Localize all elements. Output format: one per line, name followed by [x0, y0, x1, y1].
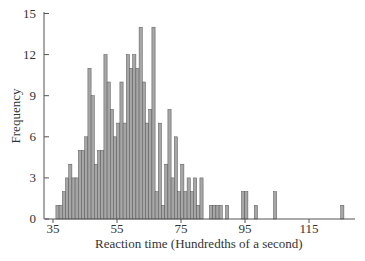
- histogram-bar: [200, 178, 203, 219]
- histogram-bar: [184, 192, 187, 219]
- histogram-bar: [104, 55, 107, 219]
- histogram-bar: [165, 164, 168, 219]
- histogram-bar: [75, 178, 78, 219]
- y-tick-label: 12: [23, 47, 36, 62]
- x-tick-label: 75: [175, 221, 188, 236]
- histogram-bar: [101, 151, 104, 220]
- histogram-bar: [72, 178, 75, 219]
- histogram-bar: [66, 178, 69, 219]
- histogram-bar: [152, 27, 155, 219]
- histogram-bar: [133, 55, 136, 219]
- histogram-bar: [59, 205, 62, 219]
- histogram-chart: 0369121535557595115 Frequency Reaction t…: [0, 0, 365, 261]
- histogram-bar: [130, 68, 133, 219]
- histogram-bar: [82, 151, 85, 220]
- histogram-bar: [91, 96, 94, 219]
- histogram-bar: [245, 192, 248, 219]
- y-axis-label: Frequency: [8, 86, 24, 146]
- histogram-bar: [146, 123, 149, 219]
- histogram-bar: [162, 205, 165, 219]
- histogram-bar: [194, 178, 197, 219]
- histogram-bar: [219, 205, 222, 219]
- histogram-bar: [158, 123, 161, 219]
- histogram-bar: [171, 178, 174, 219]
- histogram-bar: [62, 192, 65, 219]
- histogram-bar: [210, 205, 213, 219]
- histogram-bar: [341, 205, 344, 219]
- histogram-bar: [123, 123, 126, 219]
- histogram-bar: [56, 205, 59, 219]
- histogram-bar: [190, 192, 193, 219]
- histogram-bar: [126, 55, 129, 219]
- histogram-bar: [213, 205, 216, 219]
- histogram-bar: [139, 27, 142, 219]
- histogram-bar: [178, 192, 181, 219]
- histogram-bar: [85, 137, 88, 219]
- histogram-bar: [149, 109, 152, 219]
- histogram-bar: [197, 205, 200, 219]
- plot-area: 0369121535557595115: [0, 0, 365, 261]
- histogram-bar: [254, 205, 257, 219]
- histogram-bar: [181, 164, 184, 219]
- x-tick-label: 35: [47, 221, 60, 236]
- x-tick-label: 55: [111, 221, 124, 236]
- histogram-bar: [88, 68, 91, 219]
- histogram-bar: [98, 151, 101, 220]
- histogram-bar: [94, 164, 97, 219]
- histogram-bar: [69, 164, 72, 219]
- histogram-bar: [174, 137, 177, 219]
- y-tick-label: 3: [30, 170, 37, 185]
- histogram-bar: [107, 82, 110, 219]
- histogram-bar: [120, 82, 123, 219]
- histogram-bar: [110, 109, 113, 219]
- x-tick-label: 115: [299, 221, 318, 236]
- histogram-bar: [142, 82, 145, 219]
- histogram-bar: [242, 192, 245, 219]
- y-tick-label: 6: [30, 129, 37, 144]
- histogram-bar: [78, 151, 81, 220]
- histogram-bar: [226, 205, 229, 219]
- y-tick-label: 9: [30, 88, 37, 103]
- histogram-bar: [216, 205, 219, 219]
- histogram-bar: [274, 192, 277, 219]
- x-tick-label: 95: [239, 221, 252, 236]
- y-tick-label: 15: [23, 6, 36, 21]
- y-tick-label: 0: [30, 211, 37, 226]
- x-axis-label: Reaction time (Hundredths of a second): [95, 236, 303, 252]
- histogram-bar: [168, 109, 171, 219]
- histogram-bar: [117, 123, 120, 219]
- histogram-bar: [136, 68, 139, 219]
- histogram-bar: [187, 178, 190, 219]
- histogram-bar: [155, 192, 158, 219]
- histogram-bar: [114, 137, 117, 219]
